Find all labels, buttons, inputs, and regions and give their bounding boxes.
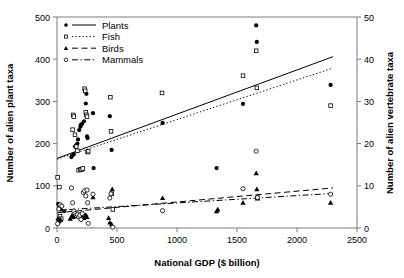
legend-label-plants: Plants bbox=[102, 20, 129, 31]
data-point bbox=[241, 102, 245, 106]
data-point bbox=[60, 204, 64, 208]
y-right-tick-label: 50 bbox=[364, 13, 374, 23]
data-point bbox=[254, 149, 258, 153]
legend-label-fish: Fish bbox=[102, 31, 120, 42]
data-point bbox=[76, 137, 80, 141]
y-left-tick-label: 400 bbox=[35, 55, 50, 65]
data-point bbox=[110, 148, 114, 152]
data-point bbox=[329, 83, 333, 87]
data-point bbox=[254, 49, 258, 53]
legend-marker-plants-icon bbox=[64, 23, 68, 27]
data-point bbox=[160, 91, 164, 95]
data-point bbox=[85, 115, 89, 119]
x-tick-label: 1500 bbox=[227, 235, 247, 245]
y-left-tick-label: 100 bbox=[35, 181, 50, 191]
data-point bbox=[329, 192, 333, 196]
data-point bbox=[91, 192, 95, 196]
data-point bbox=[86, 149, 90, 153]
data-point bbox=[56, 176, 60, 180]
data-point bbox=[215, 166, 219, 170]
legend-label-mammals: Mammals bbox=[102, 54, 143, 65]
data-point bbox=[79, 217, 83, 221]
data-point bbox=[109, 95, 113, 99]
data-point bbox=[108, 114, 112, 118]
data-point bbox=[83, 89, 87, 93]
data-point bbox=[329, 104, 333, 108]
data-point bbox=[91, 111, 95, 115]
data-point bbox=[161, 209, 165, 213]
data-point bbox=[69, 186, 73, 190]
y-right-tick-label: 20 bbox=[364, 139, 374, 149]
data-point bbox=[71, 128, 75, 132]
data-point bbox=[109, 192, 113, 196]
data-point bbox=[56, 222, 60, 226]
data-point bbox=[111, 225, 115, 229]
y-right-tick-label: 0 bbox=[364, 224, 369, 234]
data-point bbox=[71, 201, 75, 205]
data-point bbox=[58, 185, 62, 189]
data-point bbox=[161, 121, 165, 125]
x-tick-label: 2500 bbox=[347, 235, 367, 245]
data-point bbox=[254, 23, 258, 27]
y-right-tick-label: 40 bbox=[364, 55, 374, 65]
data-point bbox=[255, 196, 259, 200]
data-point bbox=[85, 188, 89, 192]
data-point bbox=[81, 167, 85, 171]
y-right-tick-label: 10 bbox=[364, 181, 374, 191]
y-left-axis-title: Number of alien plant taxa bbox=[4, 63, 15, 182]
scatter-plot: 0500100015002000250001002003004005000102… bbox=[0, 0, 404, 278]
data-point bbox=[241, 187, 245, 191]
data-point bbox=[74, 145, 78, 149]
legend-marker-mammals-icon bbox=[64, 58, 68, 62]
x-axis-title: National GDP ($ billion) bbox=[154, 257, 259, 268]
y-left-tick-label: 0 bbox=[45, 224, 50, 234]
x-tick-label: 500 bbox=[109, 235, 124, 245]
legend-label-birds: Birds bbox=[102, 43, 124, 54]
data-point bbox=[73, 133, 77, 137]
plot-background bbox=[0, 0, 404, 278]
y-left-tick-label: 500 bbox=[35, 13, 50, 23]
chart-figure: 0500100015002000250001002003004005000102… bbox=[0, 0, 404, 278]
y-right-tick-label: 30 bbox=[364, 97, 374, 107]
data-point bbox=[86, 221, 90, 225]
x-tick-label: 0 bbox=[54, 235, 59, 245]
data-point bbox=[255, 40, 259, 44]
data-point bbox=[72, 115, 76, 119]
data-point bbox=[92, 166, 96, 170]
data-point bbox=[109, 130, 113, 134]
data-point bbox=[84, 101, 88, 105]
data-point bbox=[255, 86, 259, 90]
data-point bbox=[86, 136, 90, 140]
data-point bbox=[82, 119, 86, 123]
data-point bbox=[241, 74, 245, 78]
data-point bbox=[108, 196, 112, 200]
data-point bbox=[111, 208, 115, 212]
legend-marker-fish-icon bbox=[64, 35, 67, 38]
data-point bbox=[80, 212, 84, 216]
data-point bbox=[84, 194, 88, 198]
y-left-tick-label: 300 bbox=[35, 97, 50, 107]
data-point bbox=[62, 209, 66, 213]
x-tick-label: 1000 bbox=[167, 235, 187, 245]
x-tick-label: 2000 bbox=[287, 235, 307, 245]
data-point bbox=[86, 201, 90, 205]
y-left-tick-label: 200 bbox=[35, 139, 50, 149]
y-right-axis-title: Number of alien vertebrate taxa bbox=[384, 51, 395, 194]
data-point bbox=[76, 149, 80, 153]
